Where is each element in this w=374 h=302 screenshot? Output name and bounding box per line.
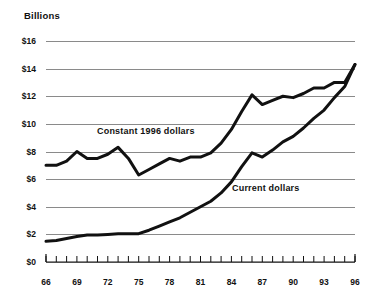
data-series-lines — [46, 64, 355, 241]
series-line — [46, 64, 355, 174]
line-chart: Billions $0$2$4$6$8$10$12$14$16 66697275… — [0, 0, 374, 302]
x-axis — [46, 254, 355, 262]
plot-area — [0, 0, 374, 302]
constant-dollars-label: Constant 1996 dollars — [97, 126, 195, 136]
current-dollars-label: Current dollars — [232, 183, 300, 193]
